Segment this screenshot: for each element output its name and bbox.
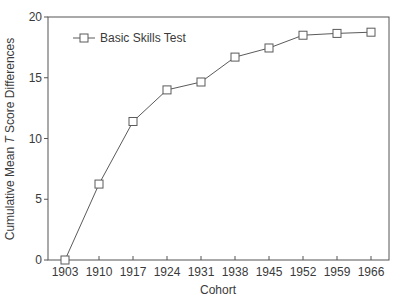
square-marker-icon	[129, 117, 137, 125]
y-tick-label: 15	[29, 71, 43, 85]
y-axis-title-suffix: Score Differences	[3, 38, 17, 137]
y-axis-title: Cumulative Mean T Score Differences	[3, 38, 17, 241]
y-tick-label: 0	[35, 253, 42, 267]
y-tick-label: 10	[29, 132, 43, 146]
line-chart: 05101520 1903191019171924193119381945195…	[0, 0, 404, 306]
x-axis-ticks: 1903191019171924193119381945195219591966	[52, 256, 385, 279]
x-tick-label: 1903	[52, 265, 79, 279]
data-series	[61, 28, 375, 264]
square-marker-icon	[265, 44, 273, 52]
x-axis-title: Cohort	[200, 283, 237, 297]
x-tick-label: 1917	[120, 265, 147, 279]
chart-container: 05101520 1903191019171924193119381945195…	[0, 0, 404, 306]
square-marker-icon	[163, 86, 171, 94]
y-axis-title-prefix: Cumulative Mean	[3, 144, 17, 241]
square-marker-icon	[197, 78, 205, 86]
y-tick-label: 20	[29, 10, 43, 24]
x-tick-label: 1952	[290, 265, 317, 279]
y-tick-label: 5	[35, 192, 42, 206]
square-marker-icon	[299, 31, 307, 39]
legend-square-marker-icon	[80, 34, 88, 42]
x-tick-label: 1910	[86, 265, 113, 279]
square-marker-icon	[367, 28, 375, 36]
square-marker-icon	[231, 53, 239, 61]
x-tick-label: 1966	[358, 265, 385, 279]
legend-label: Basic Skills Test	[100, 31, 186, 45]
y-axis-ticks: 05101520	[29, 10, 48, 267]
square-marker-icon	[95, 180, 103, 188]
legend: Basic Skills Test	[73, 31, 186, 45]
plot-frame	[48, 17, 389, 260]
x-tick-label: 1945	[256, 265, 283, 279]
x-tick-label: 1959	[324, 265, 351, 279]
x-tick-label: 1931	[188, 265, 215, 279]
square-marker-icon	[61, 256, 69, 264]
square-marker-icon	[333, 29, 341, 37]
x-tick-label: 1924	[154, 265, 181, 279]
series-line	[65, 32, 371, 260]
x-tick-label: 1938	[222, 265, 249, 279]
